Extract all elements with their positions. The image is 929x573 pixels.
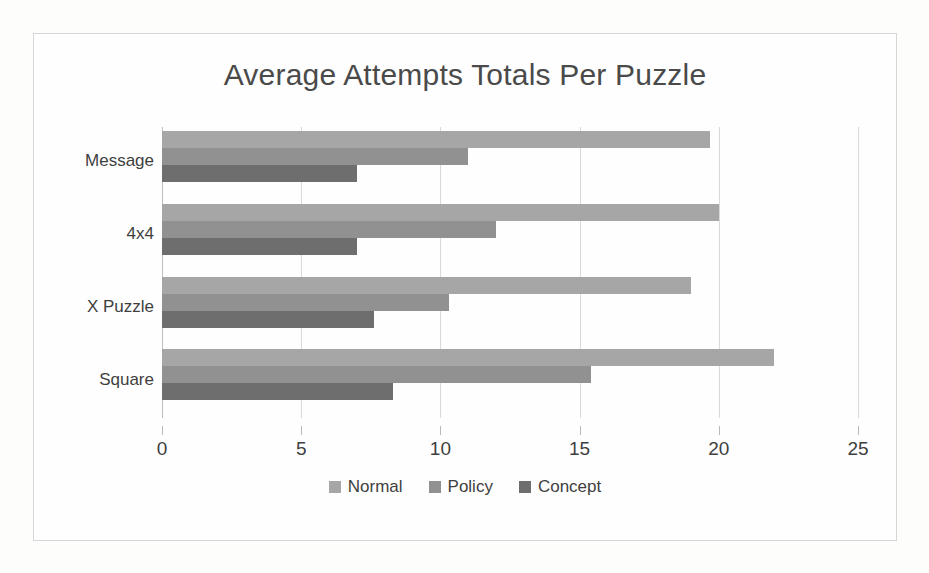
x-tick-label-20: 20	[696, 438, 742, 460]
bar-normal-x-puzzle[interactable]	[162, 277, 691, 294]
x-tick-mark-20	[719, 426, 720, 435]
x-axis: 0510152025	[162, 426, 858, 456]
bar-group-message	[162, 127, 858, 200]
chart-legend: NormalPolicyConcept	[34, 477, 896, 497]
x-tick-label-5: 5	[278, 438, 324, 460]
legend-swatch-normal-icon	[329, 481, 341, 493]
plot-area	[162, 127, 858, 418]
bar-policy-square[interactable]	[162, 366, 591, 383]
legend-item-policy[interactable]: Policy	[429, 477, 493, 497]
x-tick-label-15: 15	[557, 438, 603, 460]
bar-normal-4x4[interactable]	[162, 204, 719, 221]
x-tick-mark-0	[162, 426, 163, 435]
x-tick-label-10: 10	[417, 438, 463, 460]
bar-concept-x-puzzle[interactable]	[162, 311, 374, 328]
scanned-page: Average Attempts Totals Per Puzzle Messa…	[0, 0, 929, 573]
bar-concept-4x4[interactable]	[162, 238, 357, 255]
x-tick-label-25: 25	[835, 438, 881, 460]
bar-policy-x-puzzle[interactable]	[162, 294, 449, 311]
bar-policy-message[interactable]	[162, 148, 468, 165]
gridline-25	[858, 127, 859, 418]
bar-group-square	[162, 345, 858, 418]
bar-normal-message[interactable]	[162, 131, 710, 148]
y-axis-label-message: Message	[34, 151, 154, 171]
legend-item-normal[interactable]: Normal	[329, 477, 403, 497]
legend-label-normal: Normal	[348, 477, 403, 497]
bar-concept-square[interactable]	[162, 383, 393, 400]
chart-frame: Average Attempts Totals Per Puzzle Messa…	[33, 33, 897, 541]
x-tick-mark-10	[440, 426, 441, 435]
x-tick-mark-25	[858, 426, 859, 435]
legend-swatch-policy-icon	[429, 481, 441, 493]
y-axis-category-labels: Message4x4X PuzzleSquare	[34, 127, 154, 418]
legend-label-concept: Concept	[538, 477, 601, 497]
y-axis-label-x-puzzle: X Puzzle	[34, 297, 154, 317]
bar-normal-square[interactable]	[162, 349, 774, 366]
y-axis-label-4x4: 4x4	[34, 224, 154, 244]
bar-group-4x4	[162, 200, 858, 273]
x-tick-label-0: 0	[139, 438, 185, 460]
bar-policy-4x4[interactable]	[162, 221, 496, 238]
chart-title: Average Attempts Totals Per Puzzle	[34, 58, 896, 92]
x-tick-mark-5	[301, 426, 302, 435]
legend-label-policy: Policy	[448, 477, 493, 497]
legend-item-concept[interactable]: Concept	[519, 477, 601, 497]
x-tick-mark-15	[580, 426, 581, 435]
bar-group-x-puzzle	[162, 273, 858, 346]
y-axis-label-square: Square	[34, 370, 154, 390]
legend-swatch-concept-icon	[519, 481, 531, 493]
bar-concept-message[interactable]	[162, 165, 357, 182]
